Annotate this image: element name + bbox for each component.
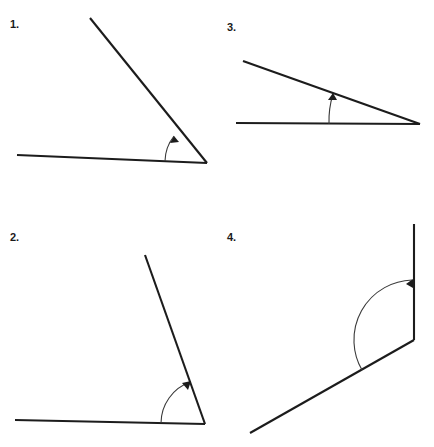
figure-2-slanted-ray — [145, 255, 205, 424]
figure-2-horizontal-ray — [15, 420, 205, 424]
figure-panel-2: 2. — [0, 224, 217, 447]
figure-panel-1: 1. — [0, 0, 217, 223]
figure-1-slanted-ray — [90, 18, 207, 163]
figure-2-angle-arc — [161, 382, 190, 423]
figure-3-slanted-ray — [243, 61, 420, 124]
angle-figure-1 — [0, 0, 217, 223]
figure-panel-4: 4. — [217, 224, 434, 447]
angle-figure-2 — [0, 224, 217, 447]
figure-1-horizontal-ray — [17, 155, 207, 163]
figure-3-horizontal-ray — [236, 123, 420, 124]
angle-figure-4 — [217, 224, 434, 447]
figure-4-slanted-ray — [250, 340, 414, 433]
worksheet-canvas: 1. 3. 2. 4. — [0, 0, 434, 447]
figure-panel-3: 3. — [217, 0, 434, 223]
angle-figure-3 — [217, 0, 434, 223]
